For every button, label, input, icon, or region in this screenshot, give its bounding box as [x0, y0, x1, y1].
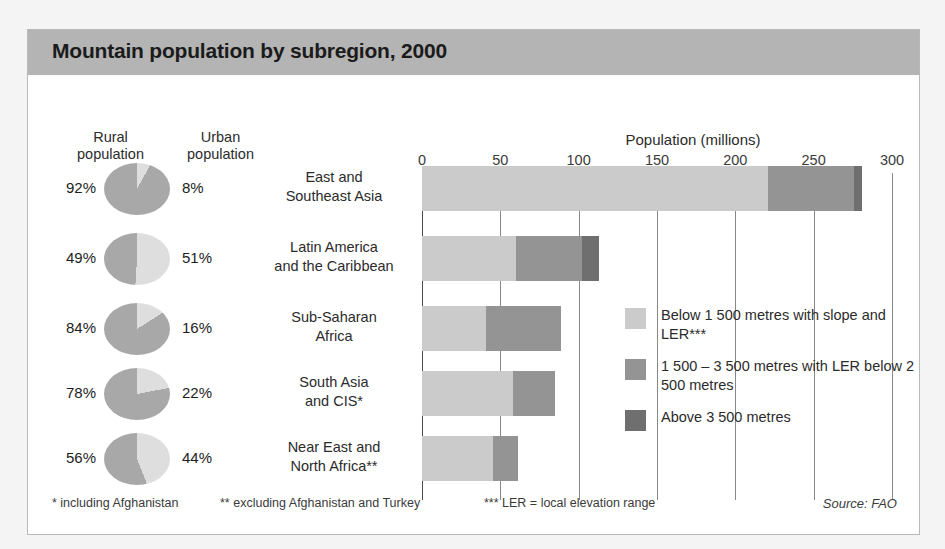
- bar-segment[interactable]: [486, 306, 561, 351]
- region-label-line: North Africa**: [254, 457, 414, 476]
- figure-frame: Mountain population by subregion, 2000 R…: [27, 29, 920, 535]
- rural-percent-label: 56%: [42, 449, 96, 466]
- legend-swatch-icon: [625, 410, 646, 431]
- bar-row[interactable]: [422, 166, 892, 211]
- bar-segment[interactable]: [516, 236, 582, 281]
- region-label: East andSoutheast Asia: [254, 168, 414, 206]
- bar-segment[interactable]: [422, 371, 513, 416]
- footnote: *** LER = local elevation range: [484, 496, 655, 510]
- region-label-line: Southeast Asia: [254, 187, 414, 206]
- region-label-line: Sub-Saharan: [254, 308, 414, 327]
- bar-segment[interactable]: [422, 166, 768, 211]
- region-label: Latin Americaand the Caribbean: [254, 238, 414, 276]
- rural-percent-label: 92%: [42, 179, 96, 196]
- rural-percent-label: 49%: [42, 249, 96, 266]
- urban-percent-label: 44%: [182, 449, 212, 466]
- pie-chart[interactable]: [104, 433, 170, 485]
- footnote: * including Afghanistan: [52, 496, 178, 510]
- region-label: Sub-SaharanAfrica: [254, 308, 414, 346]
- urban-percent-label: 51%: [182, 249, 212, 266]
- legend: Below 1 500 metres with slope and LER***…: [625, 306, 915, 459]
- pie-chart[interactable]: [104, 368, 170, 420]
- chart-page: Mountain population by subregion, 2000 R…: [0, 0, 945, 549]
- pie-chart[interactable]: [104, 163, 170, 215]
- bar-segment[interactable]: [422, 236, 516, 281]
- rural-percent-label: 84%: [42, 319, 96, 336]
- legend-label: 1 500 – 3 500 metres with LER below 2 50…: [661, 357, 915, 394]
- footnote: ** excluding Afghanistan and Turkey: [220, 496, 420, 510]
- bar-segment[interactable]: [582, 236, 599, 281]
- bar-segment[interactable]: [513, 371, 555, 416]
- bar-segment[interactable]: [422, 436, 493, 481]
- legend-item-below_1500[interactable]: Below 1 500 metres with slope and LER***: [625, 306, 915, 344]
- urban-percent-label: 22%: [182, 384, 212, 401]
- region-label: South Asiaand CIS*: [254, 373, 414, 411]
- pie-slices: [104, 163, 170, 215]
- bar-segment[interactable]: [493, 436, 518, 481]
- legend-swatch-icon: [625, 308, 646, 329]
- pie-slices: [104, 433, 170, 485]
- region-label-line: Africa: [254, 327, 414, 346]
- bar-segment[interactable]: [422, 306, 486, 351]
- legend-item-1500_3500[interactable]: 1 500 – 3 500 metres with LER below 2 50…: [625, 357, 915, 395]
- region-label-line: Latin America: [254, 238, 414, 257]
- region-label-line: and CIS*: [254, 392, 414, 411]
- legend-item-above_3500[interactable]: Above 3 500 metres: [625, 408, 915, 446]
- urban-percent-label: 16%: [182, 319, 212, 336]
- legend-label: Below 1 500 metres with slope and LER***: [661, 306, 915, 343]
- pie-slices: [104, 368, 170, 420]
- bar-segment[interactable]: [768, 166, 854, 211]
- region-label: Near East andNorth Africa**: [254, 438, 414, 476]
- bar-segment[interactable]: [854, 166, 862, 211]
- pie-chart[interactable]: [104, 303, 170, 355]
- rural-percent-label: 78%: [42, 384, 96, 401]
- pie-chart[interactable]: [104, 233, 170, 285]
- legend-swatch-icon: [625, 359, 646, 380]
- source-note: Source: FAO: [823, 496, 897, 511]
- pie-slices: [104, 233, 170, 285]
- urban-percent-label: 8%: [182, 179, 204, 196]
- bar-row[interactable]: [422, 236, 892, 281]
- region-label-line: East and: [254, 168, 414, 187]
- legend-label: Above 3 500 metres: [661, 408, 915, 427]
- region-label-line: and the Caribbean: [254, 257, 414, 276]
- region-label-line: Near East and: [254, 438, 414, 457]
- region-label-line: South Asia: [254, 373, 414, 392]
- pie-slices: [104, 303, 170, 355]
